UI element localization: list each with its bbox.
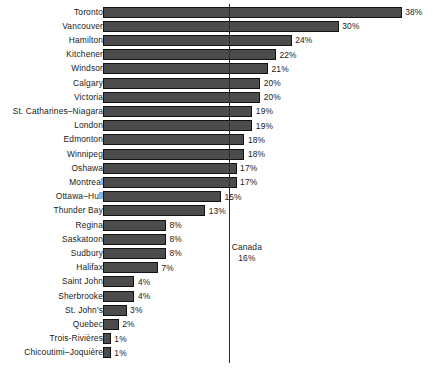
category-label: Hamilton (0, 35, 103, 46)
bar-row: Calgary20% (0, 78, 433, 92)
bar-chart: Toronto38%Vancouver30%Hamilton24%Kitchen… (0, 0, 433, 369)
bar (103, 177, 237, 188)
bar-row: Saint John4% (0, 276, 433, 290)
value-label: 8% (169, 219, 181, 231)
bar-row: Edmonton18% (0, 134, 433, 148)
category-label: Kitchener (0, 49, 103, 60)
category-label: Thunder Bay (0, 205, 103, 216)
category-label: St. John's (0, 305, 103, 316)
bar (103, 35, 292, 46)
bar-row: Sherbrooke4% (0, 291, 433, 305)
bar-row: Vancouver30% (0, 21, 433, 35)
value-label: 4% (138, 276, 150, 288)
bar (103, 120, 252, 131)
bar (103, 276, 134, 287)
bar-row: London19% (0, 120, 433, 134)
bar-row: Halifax7% (0, 262, 433, 276)
bar (103, 305, 127, 316)
value-label: 18% (248, 134, 265, 146)
bar-row: Regina8% (0, 220, 433, 234)
value-label: 15% (224, 191, 241, 203)
value-label: 17% (240, 176, 257, 188)
value-label: 19% (256, 120, 273, 132)
value-label: 2% (122, 318, 134, 330)
category-label: Saskatoon (0, 234, 103, 245)
bar (103, 191, 221, 202)
bar-row: Kitchener22% (0, 49, 433, 63)
canada-reference-annotation: Canada16% (232, 242, 262, 265)
value-label: 13% (209, 205, 226, 217)
bar-row: Victoria20% (0, 92, 433, 106)
bar (103, 234, 166, 245)
value-label: 19% (256, 105, 273, 117)
bar (103, 248, 166, 259)
bar (103, 78, 260, 89)
bar-row: Oshawa17% (0, 163, 433, 177)
category-label: Winnipeg (0, 149, 103, 160)
bar (103, 149, 244, 160)
value-label: 21% (272, 63, 289, 75)
canada-reference-value: 16% (232, 253, 262, 265)
bar (103, 262, 158, 273)
value-label: 4% (138, 290, 150, 302)
bar (103, 163, 237, 174)
category-label: Halifax (0, 262, 103, 273)
bar (103, 106, 252, 117)
category-label: Montreal (0, 177, 103, 188)
bar (103, 92, 260, 103)
plot-area: Toronto38%Vancouver30%Hamilton24%Kitchen… (0, 0, 433, 369)
bar (103, 347, 111, 358)
category-label: Calgary (0, 78, 103, 89)
category-label: Trois-Rivières (0, 333, 103, 344)
value-label: 3% (130, 304, 142, 316)
category-label: Vancouver (0, 21, 103, 32)
bar (103, 205, 205, 216)
bar (103, 49, 276, 60)
bar-row: Hamilton24% (0, 35, 433, 49)
canada-reference-line (229, 4, 230, 363)
bar-row: Windsor21% (0, 63, 433, 77)
bar (103, 134, 244, 145)
value-label: 1% (114, 333, 126, 345)
value-label: 24% (295, 34, 312, 46)
bar-row: Thunder Bay13% (0, 205, 433, 219)
category-label: Sudbury (0, 248, 103, 259)
value-label: 18% (248, 148, 265, 160)
category-label: Regina (0, 220, 103, 231)
bar-row: St. Catharines–Niagara19% (0, 106, 433, 120)
bar (103, 291, 134, 302)
category-label: Toronto (0, 7, 103, 18)
bar (103, 333, 111, 344)
bar-row: Sudbury8% (0, 248, 433, 262)
category-label: Ottawa–Hull (0, 191, 103, 202)
bar-row: Saskatoon8% (0, 234, 433, 248)
bar (103, 21, 339, 32)
bar-row: Chicoutimi–Joquière1% (0, 347, 433, 361)
bar-row: Quebec2% (0, 319, 433, 333)
value-label: 30% (342, 20, 359, 32)
category-label: Victoria (0, 92, 103, 103)
category-label: Chicoutimi–Joquière (0, 347, 103, 358)
bar-row: Montreal17% (0, 177, 433, 191)
bar-row: Toronto38% (0, 7, 433, 21)
category-label: Quebec (0, 319, 103, 330)
bar-row: Trois-Rivières1% (0, 333, 433, 347)
category-label: St. Catharines–Niagara (0, 106, 103, 117)
value-label: 22% (279, 49, 296, 61)
category-label: Sherbrooke (0, 291, 103, 302)
category-label: Saint John (0, 276, 103, 287)
value-label: 8% (169, 247, 181, 259)
value-label: 7% (162, 262, 174, 274)
value-label: 20% (264, 91, 281, 103)
category-label: Oshawa (0, 163, 103, 174)
canada-reference-name: Canada (232, 242, 262, 254)
bar (103, 319, 119, 330)
value-label: 8% (169, 233, 181, 245)
bar (103, 220, 166, 231)
bar (103, 63, 268, 74)
bar-row: Winnipeg18% (0, 149, 433, 163)
value-label: 20% (264, 77, 281, 89)
value-label: 38% (405, 6, 422, 18)
value-label: 1% (114, 347, 126, 359)
category-label: London (0, 120, 103, 131)
